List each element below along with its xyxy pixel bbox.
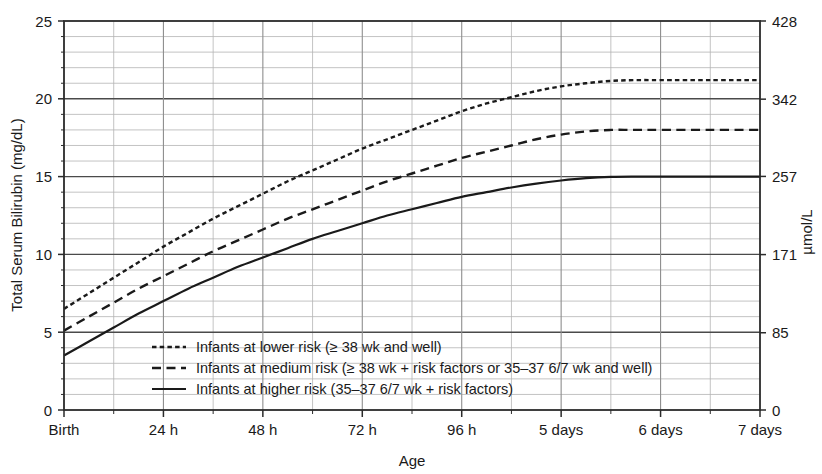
y-tick-label: 5 [44,324,52,341]
y-tick-label: 10 [35,246,52,263]
x-tick-label: Birth [49,421,80,438]
y2-tick-label: 171 [772,246,797,263]
y2-tick-label: 342 [772,91,797,108]
y-axis-tick-labels: 0510152025 [35,13,52,419]
x-axis-ticks [64,410,760,417]
y-tick-label: 15 [35,168,52,185]
y2-tick-label: 85 [772,324,789,341]
x-axis-title: Age [399,452,426,469]
y-axis-title: Total Serum Bilirubin (mg/dL) [8,118,25,311]
x-tick-label: 7 days [738,421,782,438]
x-tick-label: 6 days [638,421,682,438]
legend-label-3: Infants at higher risk (35–37 6/7 wk + r… [196,381,513,397]
y-tick-label: 0 [44,402,52,419]
x-tick-label: 24 h [149,421,178,438]
legend-label-1: Infants at lower risk (≥ 38 wk and well) [196,339,442,355]
x-tick-label: 72 h [348,421,377,438]
y-tick-label: 20 [35,90,52,107]
x-tick-label: 96 h [447,421,476,438]
legend-label-2: Infants at medium risk (≥ 38 wk + risk f… [196,360,652,376]
y2-tick-label: 257 [772,168,797,185]
x-tick-label: 48 h [248,421,277,438]
y2-tick-label: 0 [772,402,780,419]
chart-canvas: 0510152025 085171257342428 Birth24 h48 h… [0,0,822,474]
y2-axis-ticks [760,21,766,410]
y2-tick-label: 428 [772,13,797,30]
x-axis-tick-labels: Birth24 h48 h72 h96 h5 days6 days7 days [49,421,783,438]
y2-axis-title: µmol/L [798,209,815,254]
bilirubin-nomogram-figure: 0510152025 085171257342428 Birth24 h48 h… [0,0,822,474]
y-tick-label: 25 [35,13,52,30]
x-tick-label: 5 days [539,421,583,438]
y2-axis-tick-labels: 085171257342428 [772,13,797,419]
